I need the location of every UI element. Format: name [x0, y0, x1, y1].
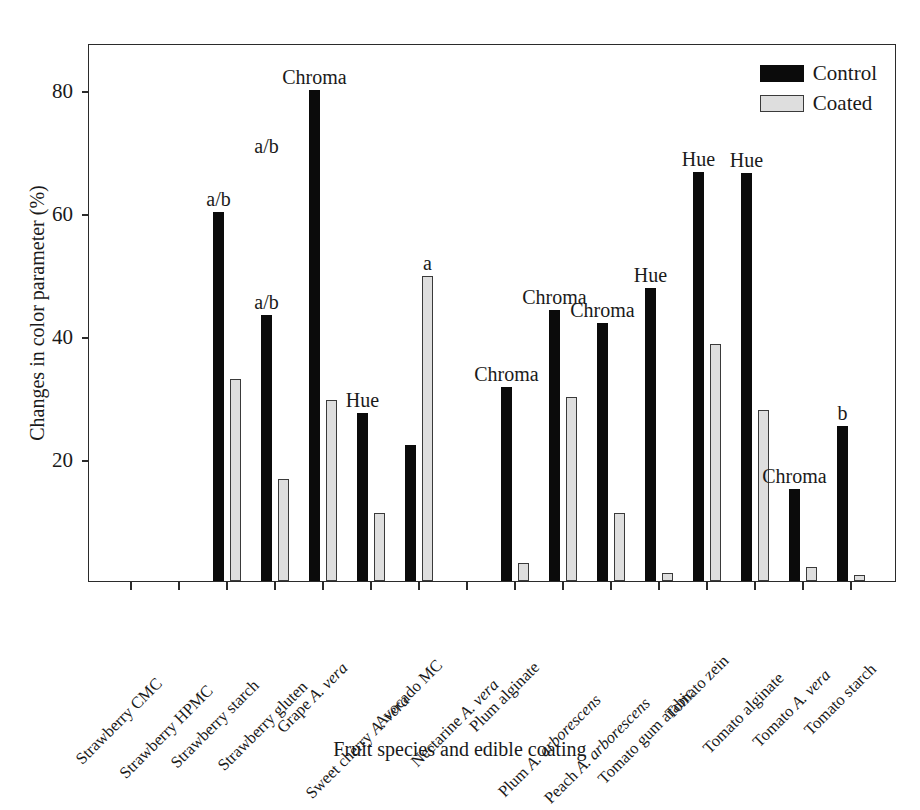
- bar-control: [309, 90, 320, 581]
- bar-control: [357, 413, 368, 581]
- x-tick-mark: [514, 581, 516, 590]
- y-tick-label: 60: [52, 204, 73, 225]
- bar-annotation: Chroma: [570, 300, 634, 320]
- bar-coated: [662, 573, 673, 581]
- bar-annotation: Chroma: [282, 67, 346, 87]
- bar-coated: [422, 276, 433, 581]
- legend: ControlCoated: [760, 63, 877, 114]
- bar-annotation: a/b: [254, 136, 278, 156]
- y-tick-mark: 80: [82, 91, 89, 93]
- bar-coated: [278, 479, 289, 581]
- x-tick-mark: [850, 581, 852, 590]
- y-tick-mark: 40: [82, 337, 89, 339]
- bar-control: [597, 323, 608, 581]
- x-tick-mark: [322, 581, 324, 590]
- bar-coated: [566, 397, 577, 581]
- bar-annotation: Hue: [682, 149, 715, 169]
- bar-control: [645, 288, 656, 581]
- bar-control: [405, 445, 416, 581]
- bar-control: [693, 172, 704, 581]
- coated-swatch: [760, 95, 804, 112]
- bar-annotation: Chroma: [762, 466, 826, 486]
- y-tick-label: 40: [52, 327, 73, 348]
- bar-coated: [758, 410, 769, 581]
- x-tick-mark: [706, 581, 708, 590]
- bar-coated: [374, 513, 385, 581]
- bar-annotation: Hue: [730, 150, 763, 170]
- bar-annotation: Hue: [634, 265, 667, 285]
- legend-label: Control: [813, 63, 877, 84]
- bar-coated: [806, 567, 817, 581]
- y-tick-label: 20: [52, 450, 73, 471]
- control-swatch: [760, 65, 804, 82]
- bar-control: [261, 315, 272, 581]
- bar-annotation: a: [423, 253, 432, 273]
- bar-coated: [518, 563, 529, 581]
- plot-area: 20406080 a/ba/bChromaHueaChromaChromaChr…: [88, 44, 896, 582]
- bar-coated: [326, 400, 337, 581]
- x-tick-mark: [274, 581, 276, 590]
- bar-annotation: Hue: [346, 390, 379, 410]
- bar-chart: Changes in color parameter (%) 20406080 …: [0, 0, 920, 810]
- bar-annotation: a/b: [206, 189, 230, 209]
- legend-item: Control: [760, 63, 877, 84]
- bar-control: [549, 310, 560, 581]
- x-tick-mark: [466, 581, 468, 590]
- bar-coated: [614, 513, 625, 581]
- x-tick-label: Tomato zein: [662, 652, 731, 721]
- x-tick-mark: [658, 581, 660, 590]
- y-axis-title-text: Changes in color parameter (%): [26, 185, 49, 440]
- bar-annotation: a/b: [254, 292, 278, 312]
- x-tick-mark: [178, 581, 180, 590]
- x-tick-mark: [610, 581, 612, 590]
- x-tick-mark: [802, 581, 804, 590]
- y-tick-label: 80: [52, 81, 73, 102]
- y-tick-mark: 60: [82, 214, 89, 216]
- bar-control: [789, 489, 800, 581]
- x-tick-mark: [562, 581, 564, 590]
- y-axis-title: Changes in color parameter (%): [24, 44, 50, 582]
- x-tick-mark: [130, 581, 132, 590]
- legend-label: Coated: [813, 93, 872, 114]
- bar-annotation: b: [838, 403, 848, 423]
- x-tick-mark: [418, 581, 420, 590]
- x-tick-mark: [754, 581, 756, 590]
- bar-control: [501, 387, 512, 581]
- bar-control: [741, 173, 752, 581]
- bar-coated: [854, 575, 865, 581]
- x-tick-mark: [226, 581, 228, 590]
- legend-item: Coated: [760, 93, 877, 114]
- bar-coated: [710, 344, 721, 581]
- x-tick-label: Avocado MC: [372, 657, 446, 731]
- y-tick-mark: 20: [82, 460, 89, 462]
- bar-annotation: Chroma: [474, 364, 538, 384]
- x-tick-mark: [370, 581, 372, 590]
- x-tick-label-italic: A. vera: [304, 658, 351, 705]
- bar-control: [837, 426, 848, 581]
- bar-coated: [230, 379, 241, 581]
- bar-control: [213, 212, 224, 581]
